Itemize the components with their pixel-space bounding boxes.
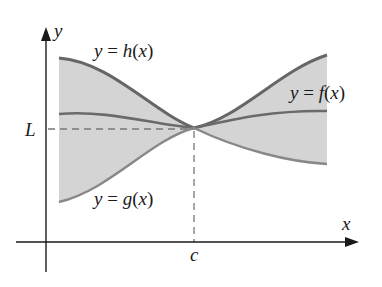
f-curve-label: y = f(x)	[288, 82, 345, 104]
x-axis-label: x	[341, 213, 351, 234]
x-axis-arrow-icon	[345, 237, 359, 247]
limit-label: L	[24, 119, 36, 140]
y-axis-label: y	[52, 20, 63, 41]
point-c-label: c	[190, 244, 199, 265]
squeeze-theorem-diagram: y = h(x) y = f(x) y = g(x) y x L c	[0, 0, 382, 287]
h-curve-label: y = h(x)	[92, 40, 153, 62]
y-axis-arrow-icon	[41, 27, 51, 41]
g-curve-label: y = g(x)	[92, 188, 153, 210]
